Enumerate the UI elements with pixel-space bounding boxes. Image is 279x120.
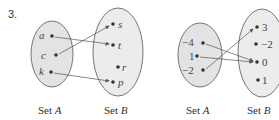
element-0: 0: [262, 56, 268, 68]
diagram-2: −4 1 −2 3 −2 0 1: [178, 9, 279, 97]
set-a-oval: [178, 23, 222, 87]
caption-set-b-2: Set B: [247, 104, 271, 116]
element-neg4: −4: [182, 36, 194, 48]
element-neg2-b: −2: [261, 38, 273, 50]
mapping-diagrams: a c k s t r p −4 1 −2 3 −2 0 1: [0, 0, 279, 120]
element-a: a: [39, 29, 45, 41]
element-p: p: [117, 76, 124, 88]
caption-set-b-1: Set B: [104, 104, 128, 116]
element-1-b: 1: [262, 74, 268, 86]
diagram-1: a c k s t r p: [31, 8, 143, 96]
caption-set-a-1: Set A: [38, 104, 62, 116]
element-neg2: −2: [182, 64, 194, 76]
element-c: c: [41, 49, 46, 61]
element-s: s: [118, 18, 122, 30]
element-r: r: [122, 61, 127, 73]
element-3: 3: [262, 21, 268, 33]
set-b-oval: [238, 9, 279, 97]
set-a-oval: [31, 21, 73, 87]
element-1: 1: [189, 50, 195, 62]
caption-set-a-2: Set A: [186, 104, 210, 116]
